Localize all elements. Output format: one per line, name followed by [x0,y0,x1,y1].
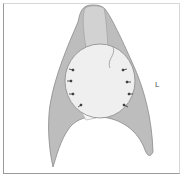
label-l: L [155,80,159,89]
central-mass [65,44,135,118]
upper-band [83,6,108,48]
diagram-canvas [0,0,184,179]
